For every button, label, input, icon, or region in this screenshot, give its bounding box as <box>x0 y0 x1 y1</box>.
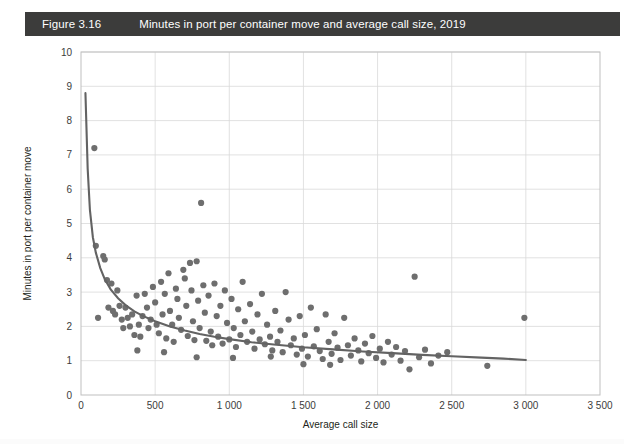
data-point <box>300 361 306 367</box>
data-point <box>163 335 169 341</box>
data-points-layer <box>91 145 527 372</box>
y-tick-label: 3 <box>66 287 72 298</box>
data-point <box>337 357 343 363</box>
data-point <box>165 270 171 276</box>
data-point <box>162 291 168 297</box>
y-tick-label: 6 <box>66 184 72 195</box>
y-tick-label: 9 <box>66 81 72 92</box>
data-point <box>230 355 236 361</box>
data-point <box>187 260 193 266</box>
data-point <box>152 299 158 305</box>
data-point <box>351 335 357 341</box>
data-point <box>373 355 379 361</box>
data-point <box>142 291 148 297</box>
data-point <box>428 360 434 366</box>
data-point <box>156 330 162 336</box>
data-point <box>185 333 191 339</box>
data-point <box>176 315 182 321</box>
horizontal-gridlines <box>81 52 600 361</box>
data-point <box>302 332 308 338</box>
data-point <box>329 351 335 357</box>
data-point <box>397 358 403 364</box>
data-point <box>277 327 283 333</box>
scatter-chart: 012345678910 05001 0001 5002 0002 5003 0… <box>0 40 624 444</box>
data-point <box>305 353 311 359</box>
data-point <box>331 330 337 336</box>
figure-title-label: Minutes in port per container move and a… <box>139 18 465 30</box>
data-point <box>444 349 450 355</box>
data-point <box>158 279 164 285</box>
data-point <box>202 310 208 316</box>
data-point <box>294 351 300 357</box>
data-point <box>134 347 140 353</box>
x-tick-label: 500 <box>147 400 164 411</box>
data-point <box>191 337 197 343</box>
data-point <box>195 298 201 304</box>
data-point <box>171 339 177 345</box>
data-point <box>131 332 137 338</box>
data-point <box>233 344 239 350</box>
data-point <box>217 303 223 309</box>
data-point <box>249 328 255 334</box>
data-point <box>134 292 140 298</box>
x-tick-label: 0 <box>78 400 84 411</box>
data-point <box>269 347 275 353</box>
data-point <box>345 342 351 348</box>
data-point <box>267 334 273 340</box>
y-tick-label: 7 <box>66 149 72 160</box>
data-point <box>222 287 228 293</box>
data-point <box>286 316 292 322</box>
data-point <box>208 328 214 334</box>
data-point <box>323 311 329 317</box>
data-point <box>188 287 194 293</box>
data-point <box>194 258 200 264</box>
data-point <box>197 325 203 331</box>
data-point <box>174 296 180 302</box>
data-point <box>137 334 143 340</box>
x-tick-label: 2 500 <box>439 400 464 411</box>
data-point <box>251 346 257 352</box>
data-point <box>145 325 151 331</box>
data-point <box>237 332 243 338</box>
data-point <box>91 145 97 151</box>
data-point <box>327 362 333 368</box>
data-point <box>385 339 391 345</box>
data-point <box>161 349 167 355</box>
data-point <box>297 313 303 319</box>
y-tick-label: 10 <box>61 47 73 58</box>
data-point <box>214 313 220 319</box>
data-point <box>484 363 490 369</box>
x-tick-label: 1 000 <box>217 400 242 411</box>
y-tick-label: 8 <box>66 115 72 126</box>
y-axis-tick-labels: 012345678910 <box>61 47 73 401</box>
data-point <box>264 322 270 328</box>
data-point <box>228 296 234 302</box>
data-point <box>211 280 217 286</box>
x-tick-label: 1 500 <box>291 400 316 411</box>
x-axis-tick-labels: 05001 0001 5002 0002 5003 0003 500 <box>78 400 613 411</box>
chart-canvas: 012345678910 05001 0001 5002 0002 5003 0… <box>0 40 624 444</box>
data-point <box>224 320 230 326</box>
data-point <box>144 304 150 310</box>
data-point <box>247 301 253 307</box>
data-point <box>119 316 125 322</box>
data-point <box>268 353 274 359</box>
data-point <box>358 358 364 364</box>
data-point <box>377 346 383 352</box>
data-point <box>209 342 215 348</box>
figure-number-label: Figure 3.16 <box>42 18 101 30</box>
data-point <box>326 339 332 345</box>
data-point <box>308 304 314 310</box>
data-point <box>173 286 179 292</box>
data-point <box>422 347 428 353</box>
data-point <box>183 303 189 309</box>
data-point <box>380 359 386 365</box>
data-point <box>412 274 418 280</box>
data-point <box>200 282 206 288</box>
trend-curve <box>85 93 525 360</box>
data-point <box>198 200 204 206</box>
x-tick-label: 3 500 <box>587 400 612 411</box>
y-axis-title: Minutes in port per container move <box>22 146 33 300</box>
data-point <box>167 308 173 314</box>
data-point <box>242 318 248 324</box>
